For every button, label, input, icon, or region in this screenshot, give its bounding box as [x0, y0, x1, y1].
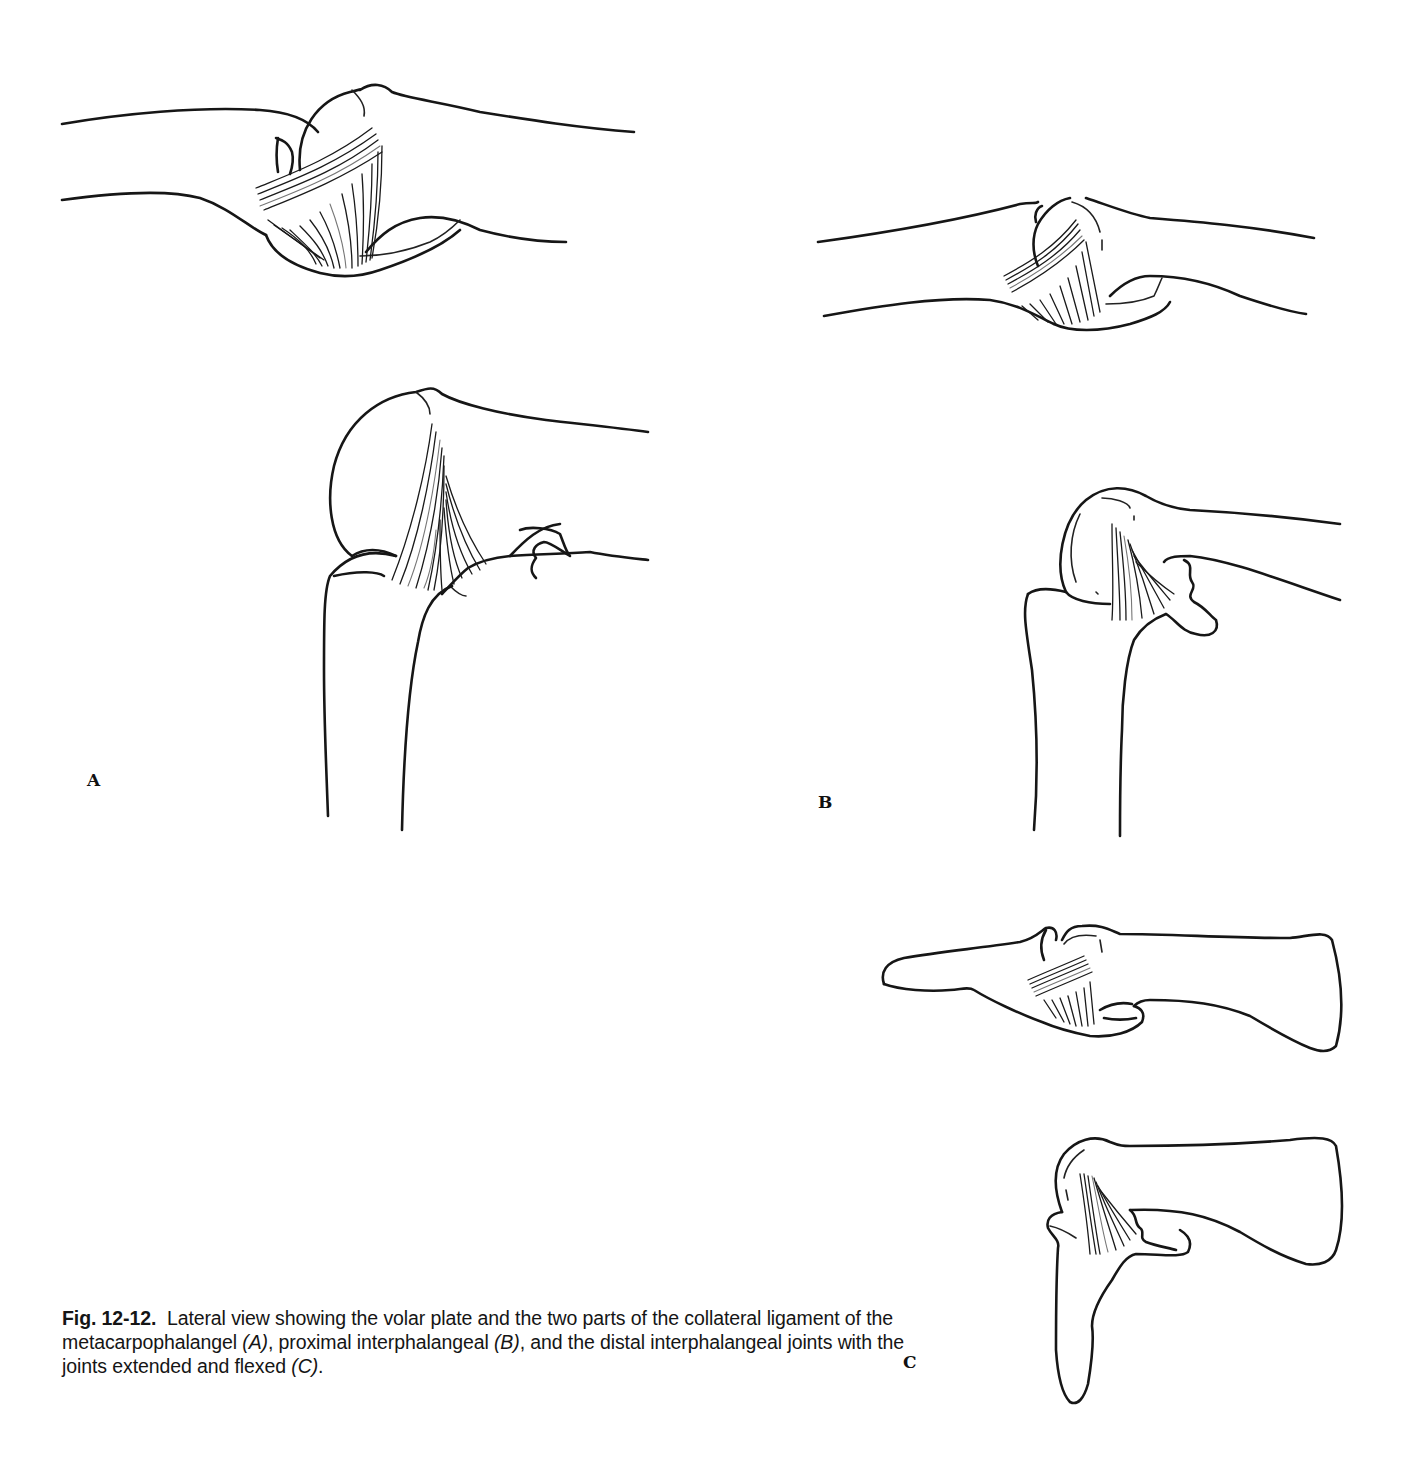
collateral-ligament-fibers: [1028, 956, 1094, 1026]
dip-extended-illustration: [870, 900, 1350, 1060]
caption-ref-c: (C): [291, 1355, 318, 1377]
panel-label-a: A: [87, 770, 100, 790]
caption-text-4: .: [318, 1355, 323, 1377]
collateral-ligament-fibers: [256, 128, 382, 268]
dip-flexed-illustration: [1020, 1120, 1360, 1460]
panel-a-extended-drawing: [60, 80, 660, 300]
panel-a-flexed-drawing: [300, 380, 660, 860]
figure-number: Fig. 12-12.: [62, 1307, 156, 1329]
panel-c-flexed-drawing: [1020, 1120, 1360, 1460]
caption-ref-a: (A): [242, 1331, 268, 1353]
panel-b-extended-drawing: [810, 196, 1350, 336]
mcp-extended-illustration: [60, 80, 660, 300]
figure-caption: Fig. 12-12. Lateral view showing the vol…: [62, 1306, 922, 1378]
caption-text-2: , proximal interphalangeal: [268, 1331, 494, 1353]
panel-label-b: B: [818, 792, 832, 812]
panel-c-extended-drawing: [870, 900, 1350, 1060]
pip-flexed-illustration: [1010, 470, 1360, 870]
collateral-ligament-fibers: [1080, 1174, 1136, 1254]
panel-b-flexed-drawing: [1010, 470, 1360, 870]
collateral-ligament-fibers: [1112, 524, 1174, 620]
caption-ref-b: (B): [494, 1331, 520, 1353]
pip-extended-illustration: [810, 196, 1350, 336]
mcp-flexed-illustration: [300, 380, 660, 860]
